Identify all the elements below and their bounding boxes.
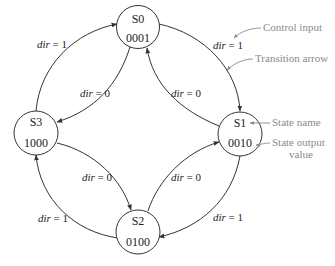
state-output: 1000 bbox=[24, 136, 48, 150]
label-s2-s1: dir = 0 bbox=[171, 171, 202, 183]
state-name: S2 bbox=[132, 214, 145, 228]
label-s0-s1: dir = 1 bbox=[213, 39, 243, 51]
label-s1-s0: dir = 0 bbox=[171, 87, 202, 99]
state-diagram: S0 0001 S1 0010 S2 0100 S3 1000 dir = 1 … bbox=[0, 0, 335, 266]
state-s1: S1 0010 bbox=[218, 112, 262, 156]
annotation-state-output: State output value bbox=[256, 136, 325, 160]
state-s2: S2 0100 bbox=[116, 210, 160, 254]
label-s1-s2: dir = 1 bbox=[213, 211, 243, 223]
annotation-transition-arrow: Transition arrow bbox=[227, 52, 328, 70]
annotation-text: State name bbox=[272, 116, 321, 128]
state-s0: S0 0001 bbox=[117, 6, 160, 49]
transition-s1-s2 bbox=[159, 156, 240, 237]
label-s0-s3: dir = 0 bbox=[80, 87, 111, 99]
state-output: 0100 bbox=[126, 235, 150, 249]
label-s2-s3: dir = 1 bbox=[38, 212, 68, 224]
label-s3-s2: dir = 0 bbox=[82, 171, 113, 183]
state-output: 0010 bbox=[228, 136, 252, 150]
state-output: 0001 bbox=[126, 31, 150, 45]
annotation-text: value bbox=[289, 148, 313, 160]
state-name: S0 bbox=[132, 12, 145, 26]
annotation-text: Transition arrow bbox=[255, 52, 328, 64]
state-name: S1 bbox=[234, 116, 247, 130]
state-s3: S3 1000 bbox=[14, 111, 58, 155]
transition-s2-s3 bbox=[36, 155, 118, 238]
callout-arrow bbox=[227, 59, 253, 70]
transition-s0-s3 bbox=[57, 47, 130, 122]
label-s3-s0: dir = 1 bbox=[37, 38, 67, 50]
annotation-text: Control input bbox=[263, 21, 322, 33]
state-name: S3 bbox=[30, 115, 43, 129]
callout-arrow bbox=[234, 28, 261, 38]
annotation-control-input: Control input bbox=[234, 21, 322, 38]
annotation-text: State output bbox=[272, 136, 325, 148]
